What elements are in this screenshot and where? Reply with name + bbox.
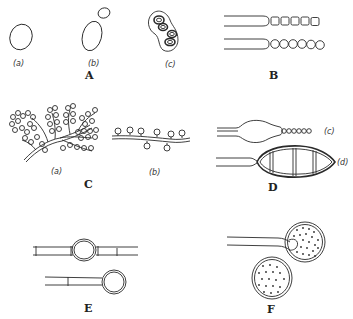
panel-c-sublabel-a: (a) xyxy=(51,167,62,176)
panel-b-label: B xyxy=(269,69,278,82)
septate-macroconidium xyxy=(216,146,335,177)
panel-c: (a) (b) C xyxy=(10,104,191,192)
terminal-chlamydospore xyxy=(45,270,126,294)
sporangium-on-sporangiophore xyxy=(227,222,325,262)
hypha-arthrospores xyxy=(224,16,319,26)
ascus-with-spores xyxy=(148,11,178,51)
yeast-cell-oval xyxy=(6,21,36,53)
panel-a-sublabel-b: (b) xyxy=(88,59,99,68)
panel-c-sublabel-b: (b) xyxy=(149,168,160,177)
branched-conidiophore xyxy=(10,104,99,163)
panel-a: (a) (b) (c) A xyxy=(6,6,178,82)
free-sporangium xyxy=(252,257,292,299)
panel-f: F xyxy=(227,222,325,316)
hypha-round-spores xyxy=(224,39,324,49)
panel-b: B xyxy=(224,16,324,82)
spore-types-diagram: (a) (b) (c) A xyxy=(0,0,353,319)
panel-d-sublabel-d: (d) xyxy=(337,158,348,167)
panel-e-label: E xyxy=(84,302,92,315)
panel-d: (c) (d) D xyxy=(216,120,348,194)
panel-c-label: C xyxy=(84,178,93,191)
panel-a-label: A xyxy=(84,69,94,82)
panel-a-sublabel-c: (c) xyxy=(165,60,176,69)
panel-a-sublabel-a: (a) xyxy=(13,59,24,68)
panel-e: E xyxy=(33,239,138,315)
panel-d-sublabel-c: (c) xyxy=(324,127,335,136)
panel-d-label: D xyxy=(268,181,278,194)
free-sporangiospores xyxy=(258,264,285,294)
intercalary-chlamydospore xyxy=(33,239,138,261)
hypha-lateral-conidia xyxy=(112,127,190,151)
panel-f-label: F xyxy=(267,303,275,316)
club-hypha-spore-chain xyxy=(217,120,311,142)
budding-yeast-cell xyxy=(79,6,111,53)
